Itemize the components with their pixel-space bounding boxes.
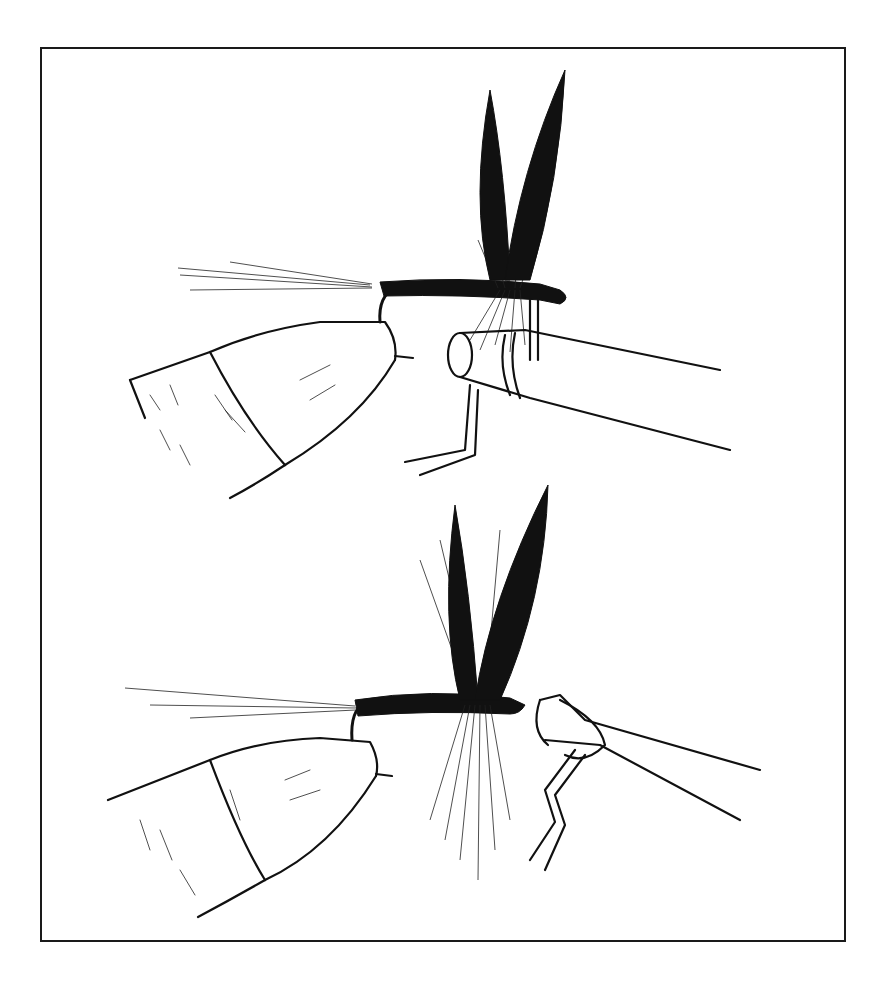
top-vise-jaw (130, 322, 413, 498)
bottom-wing-right (475, 485, 548, 700)
bottom-vise-jaw (108, 738, 392, 917)
bottom-tool (530, 695, 760, 870)
bottom-wing-left (449, 505, 478, 700)
bottom-tail (125, 688, 356, 718)
bottom-fly-figure (108, 485, 760, 917)
top-wing-left (480, 90, 510, 280)
top-tool (405, 300, 730, 475)
top-fly-figure (130, 70, 730, 498)
fly-tying-illustration (0, 0, 885, 986)
top-tail (178, 262, 372, 290)
top-wing-right (505, 70, 565, 280)
